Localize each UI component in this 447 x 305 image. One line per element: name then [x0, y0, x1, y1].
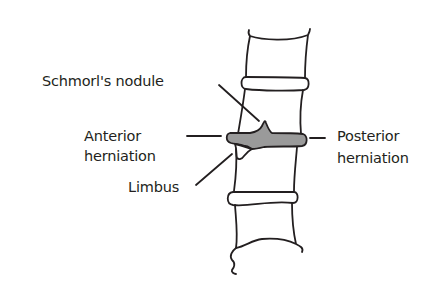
label-schmorls-nodule: Schmorl's nodule — [42, 70, 164, 92]
label-anterior-herniation-line2: herniation — [84, 145, 156, 167]
spine-herniation-diagram: Schmorl's nodule Anterior herniation Lim… — [0, 0, 447, 305]
label-anterior-herniation-line1: Anterior — [84, 125, 141, 147]
label-posterior-herniation-line1: Posterior — [337, 125, 399, 147]
vertebra-top — [246, 29, 310, 78]
disc-lower — [228, 192, 298, 205]
label-posterior-herniation-line2: herniation — [337, 147, 409, 169]
vertebra-bottom-fragment — [231, 248, 236, 274]
vertebra-bottom — [235, 203, 303, 252]
label-limbus: Limbus — [128, 176, 179, 198]
disc-top — [242, 77, 309, 91]
leader-limbus — [196, 154, 232, 185]
